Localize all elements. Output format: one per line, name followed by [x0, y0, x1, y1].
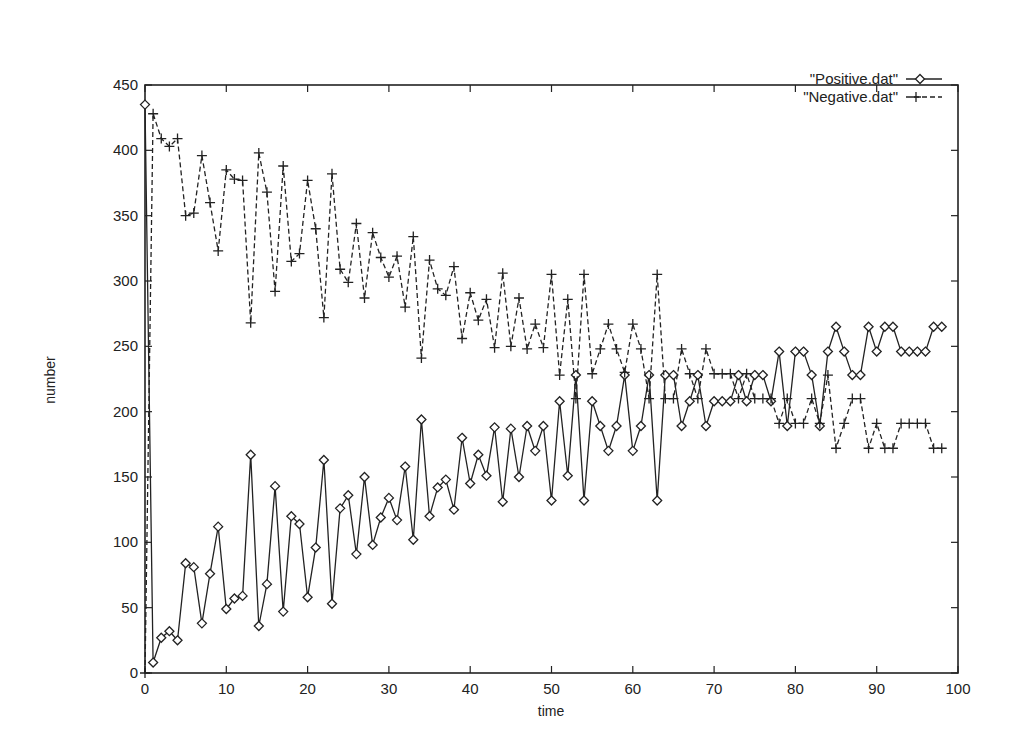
- diamond-marker: [531, 446, 540, 455]
- plus-marker: [481, 294, 491, 304]
- plus-marker: [335, 264, 345, 274]
- plus-marker: [473, 315, 483, 325]
- diamond-marker: [474, 450, 483, 459]
- diamond-marker: [734, 371, 743, 380]
- legend-label-negative: "Negative.dat": [803, 88, 898, 105]
- diamond-marker: [799, 347, 808, 356]
- plus-marker: [213, 246, 223, 256]
- x-axis: 0102030405060708090100: [141, 85, 971, 697]
- plus-marker: [319, 313, 329, 323]
- plus-marker: [156, 134, 166, 144]
- diamond-marker: [872, 347, 881, 356]
- plus-marker: [262, 187, 272, 197]
- plus-marker: [652, 269, 662, 279]
- diamond-marker: [279, 607, 288, 616]
- diamond-marker: [832, 322, 841, 331]
- plus-marker: [506, 341, 516, 351]
- plus-marker: [343, 277, 353, 287]
- diamond-marker: [311, 543, 320, 552]
- y-tick-label: 200: [113, 403, 138, 420]
- diamond-marker: [758, 371, 767, 380]
- plus-marker: [392, 251, 402, 261]
- plus-marker: [733, 394, 743, 404]
- plus-marker: [416, 353, 426, 363]
- diamond-marker: [547, 496, 556, 505]
- diamond-marker: [319, 456, 328, 465]
- x-tick-label: 30: [381, 680, 398, 697]
- diamond-marker: [612, 422, 621, 431]
- plus-marker: [140, 668, 150, 678]
- y-tick-label: 450: [113, 76, 138, 93]
- diamond-marker: [571, 371, 580, 380]
- diamond-marker: [916, 75, 925, 84]
- diamond-marker: [181, 559, 190, 568]
- diamond-marker: [807, 371, 816, 380]
- diamond-marker: [417, 415, 426, 424]
- dashed-line: [145, 114, 942, 673]
- series-layer: [140, 100, 947, 678]
- plus-marker: [351, 219, 361, 229]
- diamond-marker: [449, 505, 458, 514]
- plus-marker: [530, 319, 540, 329]
- plus-marker: [246, 318, 256, 328]
- plus-marker: [555, 370, 565, 380]
- diamond-marker: [482, 471, 491, 480]
- diamond-marker: [506, 424, 515, 433]
- diamond-marker: [197, 619, 206, 628]
- diamond-marker: [376, 513, 385, 522]
- plus-marker: [425, 255, 435, 265]
- plus-marker: [457, 333, 467, 343]
- diamond-marker: [238, 591, 247, 600]
- plus-marker: [547, 269, 557, 279]
- y-axis: 050100150200250300350400450: [113, 76, 958, 681]
- line-chart: 0102030405060708090100 05010015020025030…: [0, 0, 1019, 753]
- diamond-marker: [352, 550, 361, 559]
- plus-marker: [538, 343, 548, 353]
- plus-marker: [725, 369, 735, 379]
- diamond-marker: [677, 422, 686, 431]
- plus-marker: [603, 319, 613, 329]
- diamond-marker: [401, 462, 410, 471]
- plus-marker: [799, 418, 809, 428]
- y-tick-label: 100: [113, 533, 138, 550]
- plus-marker: [677, 344, 687, 354]
- diamond-marker: [645, 371, 654, 380]
- x-tick-label: 50: [543, 680, 560, 697]
- diamond-marker: [628, 446, 637, 455]
- plus-marker: [888, 443, 898, 453]
- plus-marker: [197, 151, 207, 161]
- diamond-marker: [327, 599, 336, 608]
- plus-marker: [701, 344, 711, 354]
- x-axis-label: time: [538, 703, 565, 719]
- legend: "Positive.dat" "Negative.dat": [803, 70, 942, 105]
- x-tick-label: 0: [141, 680, 149, 697]
- plus-marker: [522, 344, 532, 354]
- plus-marker: [774, 418, 784, 428]
- diamond-marker: [596, 422, 605, 431]
- plus-marker: [855, 394, 865, 404]
- diamond-marker: [344, 491, 353, 500]
- plus-marker: [148, 109, 158, 119]
- diamond-marker: [856, 371, 865, 380]
- plus-marker: [571, 394, 581, 404]
- y-tick-label: 300: [113, 272, 138, 289]
- x-tick-label: 60: [624, 680, 641, 697]
- diamond-marker: [409, 535, 418, 544]
- diamond-marker: [246, 450, 255, 459]
- diamond-marker: [563, 471, 572, 480]
- series-positive: [141, 100, 947, 667]
- diamond-marker: [262, 580, 271, 589]
- diamond-marker: [937, 322, 946, 331]
- plus-marker: [303, 175, 313, 185]
- diamond-marker: [864, 322, 873, 331]
- diamond-marker: [921, 347, 930, 356]
- diamond-marker: [888, 322, 897, 331]
- plus-marker: [685, 369, 695, 379]
- plus-marker: [368, 228, 378, 238]
- diamond-marker: [490, 423, 499, 432]
- diamond-marker: [555, 397, 564, 406]
- diamond-marker: [653, 496, 662, 505]
- diamond-marker: [604, 446, 613, 455]
- plus-marker: [400, 302, 410, 312]
- diamond-marker: [701, 422, 710, 431]
